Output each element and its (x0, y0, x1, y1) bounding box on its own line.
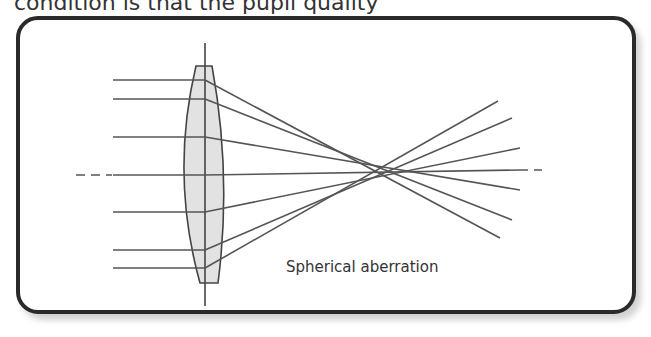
ray-out (205, 148, 520, 212)
spherical-aberration-diagram (0, 0, 651, 337)
ray-out (205, 101, 498, 268)
diagram-caption: Spherical aberration (286, 258, 438, 276)
ray-out (205, 170, 520, 175)
ray-out (205, 118, 512, 250)
rays (113, 80, 520, 268)
ray-out (205, 80, 500, 238)
